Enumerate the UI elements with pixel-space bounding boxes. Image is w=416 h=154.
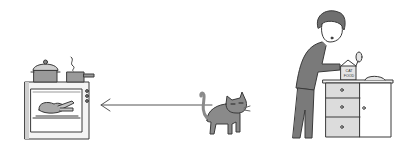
- cat: [201, 92, 250, 134]
- pot-icon: [31, 60, 60, 82]
- cat-food-label: CAT FOOD: [342, 69, 356, 79]
- arrow-left-icon: [101, 99, 212, 111]
- kitchen-counter: [323, 76, 393, 137]
- saucepan-icon: [67, 57, 94, 82]
- oven: [25, 57, 94, 139]
